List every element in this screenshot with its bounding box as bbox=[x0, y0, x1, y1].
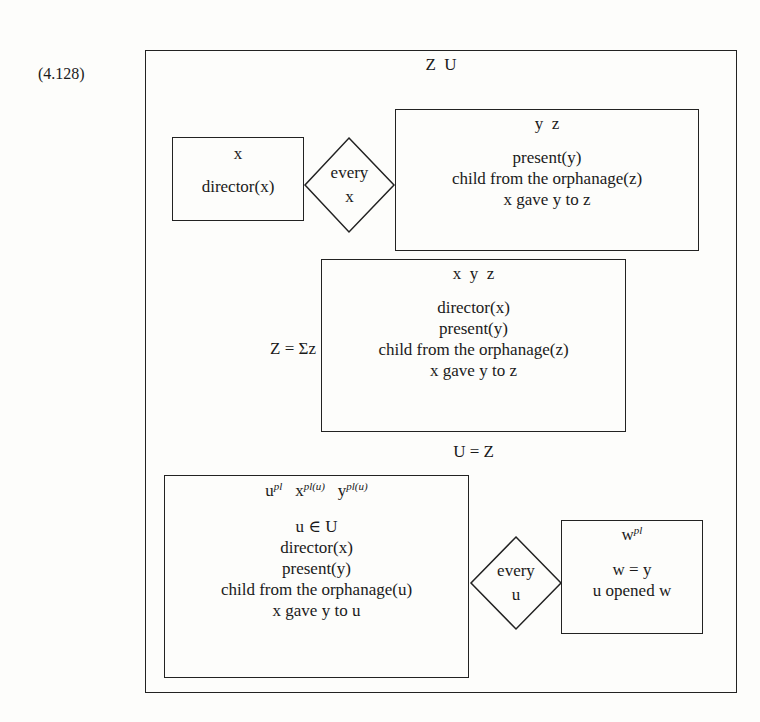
condition-gave-z: x gave y to z bbox=[504, 189, 591, 210]
consequent-box-yz-content: y z present(y) child from the orphanage(… bbox=[395, 113, 699, 210]
quantifier-every-x: every x bbox=[305, 162, 394, 207]
antecedent-box-plural-content: upl xpl(u) ypl(u) u ∈ U director(x) pres… bbox=[164, 480, 469, 621]
summation-label: Z = Σz bbox=[236, 338, 320, 359]
quantifier-word: every bbox=[331, 162, 369, 183]
quantifier-var: x bbox=[345, 186, 354, 207]
condition-child-z: child from the orphanage(z) bbox=[378, 339, 568, 360]
universe-w: wpl bbox=[622, 524, 643, 545]
universe-x: x bbox=[234, 143, 243, 164]
equation-u-equals-z: U = Z bbox=[321, 441, 626, 462]
condition-u-in-U: u ∈ U bbox=[296, 516, 338, 537]
condition-gave-z: x gave y to z bbox=[430, 360, 517, 381]
universe-yz: y z bbox=[535, 113, 560, 134]
quantifier-word: every bbox=[497, 560, 535, 581]
sup-pl-u: pl(u) bbox=[304, 480, 325, 492]
condition-w-equals-y: w = y bbox=[613, 559, 652, 580]
condition-director-x: director(x) bbox=[437, 297, 510, 318]
condition-child-u: child from the orphanage(u) bbox=[221, 579, 412, 600]
condition-child-z: child from the orphanage(z) bbox=[452, 168, 642, 189]
universe-u: u bbox=[265, 481, 274, 500]
condition-present-y: present(y) bbox=[439, 318, 508, 339]
universe-x: x bbox=[295, 481, 304, 500]
universe-xyz: x y z bbox=[453, 263, 495, 284]
condition-gave-u: x gave y to u bbox=[273, 600, 361, 621]
condition-director-x: director(x) bbox=[202, 176, 275, 197]
quantifier-every-u: every u bbox=[471, 560, 561, 605]
quantifier-var: u bbox=[512, 584, 521, 605]
condition-u-opened-w: u opened w bbox=[593, 580, 671, 601]
antecedent-box-x-content: x director(x) bbox=[172, 143, 304, 197]
summation-box-content: x y z director(x) present(y) child from … bbox=[321, 263, 626, 381]
sup-pl: pl bbox=[634, 524, 643, 536]
consequent-box-w-content: wpl w = y u opened w bbox=[561, 524, 703, 601]
sup-pl-u: pl(u) bbox=[346, 480, 367, 492]
universe-plural: upl xpl(u) ypl(u) bbox=[265, 480, 367, 501]
condition-director-x: director(x) bbox=[280, 537, 353, 558]
condition-present-y: present(y) bbox=[513, 147, 582, 168]
condition-present-y: present(y) bbox=[282, 558, 351, 579]
universe-w-base: w bbox=[622, 525, 634, 544]
universe-y: y bbox=[338, 481, 347, 500]
sup-pl: pl bbox=[274, 480, 283, 492]
